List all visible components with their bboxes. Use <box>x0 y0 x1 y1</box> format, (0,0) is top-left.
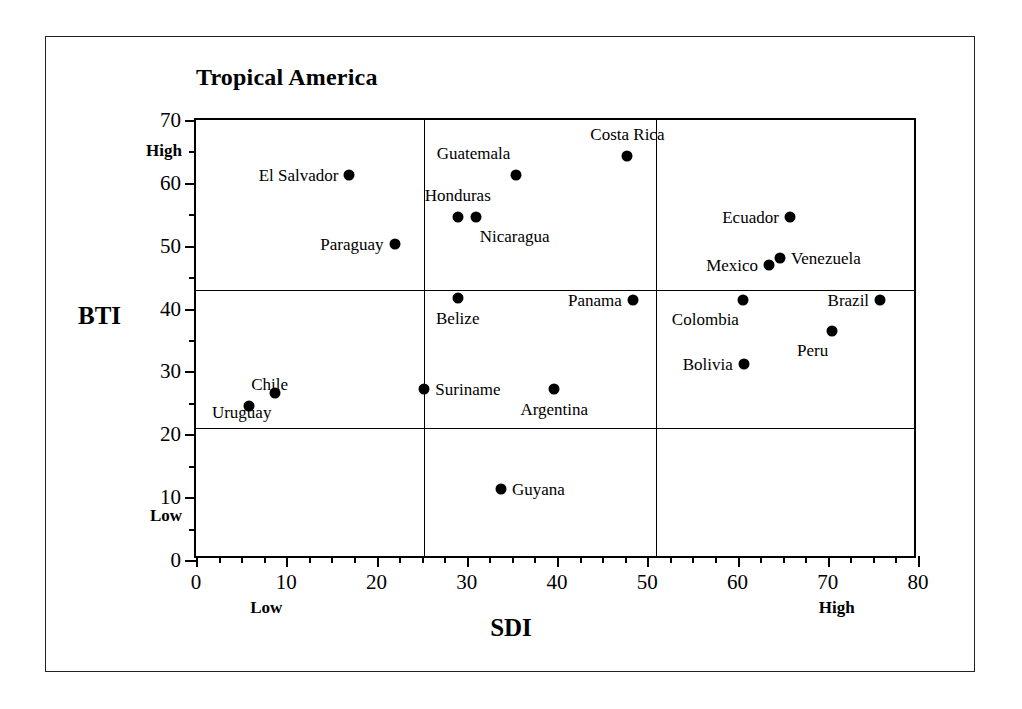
data-point[interactable] <box>875 295 886 306</box>
y-tick-major <box>185 246 196 248</box>
data-point-label: Paraguay <box>320 235 383 255</box>
data-point-label: Belize <box>436 309 479 329</box>
data-point[interactable] <box>419 384 430 395</box>
x-tick-major <box>738 556 740 567</box>
data-point[interactable] <box>389 238 400 249</box>
y-tick-minor <box>189 466 196 468</box>
x-tick-label: 70 <box>817 570 838 595</box>
y-tick-major <box>185 120 196 122</box>
data-point[interactable] <box>622 151 633 162</box>
data-point[interactable] <box>549 384 560 395</box>
x-tick-minor <box>895 556 897 563</box>
y-tick-minor <box>189 214 196 216</box>
plot-area: 010203040506070 01020304050607080 El Sal… <box>194 118 916 558</box>
x-tick-minor <box>331 556 333 563</box>
x-tick-minor <box>580 556 582 563</box>
data-point[interactable] <box>452 292 463 303</box>
x-tick-major <box>557 556 559 567</box>
data-point[interactable] <box>784 212 795 223</box>
x-axis-title: SDI <box>0 614 1022 642</box>
x-tick-label: 30 <box>456 570 477 595</box>
x-tick-minor <box>219 556 221 563</box>
x-tick-minor <box>805 556 807 563</box>
x-tick-major <box>286 556 288 567</box>
data-point[interactable] <box>496 483 507 494</box>
x-tick-major <box>377 556 379 567</box>
x-tick-label: 60 <box>727 570 748 595</box>
y-tick-major <box>185 371 196 373</box>
data-point[interactable] <box>627 295 638 306</box>
y-tick-label: 20 <box>160 422 181 447</box>
data-point[interactable] <box>737 295 748 306</box>
x-tick-label: 50 <box>637 570 658 595</box>
x-tick-label: 20 <box>366 570 387 595</box>
data-point[interactable] <box>511 169 522 180</box>
data-point-label: Venezuela <box>791 249 861 269</box>
y-tick-label: 30 <box>160 359 181 384</box>
x-tick-minor <box>309 556 311 563</box>
data-point[interactable] <box>764 259 775 270</box>
y-tick-major <box>185 434 196 436</box>
data-point-label: Bolivia <box>683 355 733 375</box>
data-point[interactable] <box>452 212 463 223</box>
data-point[interactable] <box>827 326 838 337</box>
x-tick-minor <box>241 556 243 563</box>
chart-title: Tropical America <box>196 64 378 91</box>
data-point[interactable] <box>344 169 355 180</box>
data-point-label: Panama <box>568 291 622 311</box>
y-tick-minor <box>189 277 196 279</box>
x-tick-major <box>918 556 920 567</box>
x-tick-minor <box>783 556 785 563</box>
data-point-label: Mexico <box>706 256 758 276</box>
x-tick-minor <box>760 556 762 563</box>
y-tick-major <box>185 497 196 499</box>
data-point-label: Costa Rica <box>590 125 664 145</box>
data-point-label: Guatemala <box>437 144 511 164</box>
x-tick-label: 10 <box>276 570 297 595</box>
data-point-label: Ecuador <box>722 208 779 228</box>
data-point-label: Guyana <box>512 480 565 500</box>
data-point-label: Brazil <box>828 291 870 311</box>
data-point[interactable] <box>270 387 281 398</box>
y-tick-label: 70 <box>160 108 181 133</box>
y-tick-minor <box>189 529 196 531</box>
data-point-label: Nicaragua <box>480 227 550 247</box>
data-point[interactable] <box>738 358 749 369</box>
y-axis-title: BTI <box>78 302 121 330</box>
y-tick-major <box>185 560 196 562</box>
x-tick-minor <box>715 556 717 563</box>
y-tick-label: 50 <box>160 233 181 258</box>
x-tick-major <box>196 556 198 567</box>
x-tick-label: 0 <box>191 570 202 595</box>
x-axis-high-label: High <box>819 598 855 618</box>
x-tick-minor <box>873 556 875 563</box>
x-tick-minor <box>264 556 266 563</box>
x-tick-major <box>828 556 830 567</box>
data-point-label: Colombia <box>672 310 739 330</box>
data-point-label: Argentina <box>520 400 588 420</box>
x-tick-label: 80 <box>908 570 929 595</box>
y-tick-label: 0 <box>171 548 182 573</box>
y-axis-high-label: High <box>146 141 182 161</box>
x-tick-minor <box>850 556 852 563</box>
x-tick-minor <box>625 556 627 563</box>
data-point-label: Peru <box>797 341 828 361</box>
x-tick-minor <box>534 556 536 563</box>
data-point[interactable] <box>470 212 481 223</box>
x-tick-major <box>467 556 469 567</box>
y-tick-major <box>185 309 196 311</box>
data-point-label: El Salvador <box>259 166 339 186</box>
data-point-label: Suriname <box>435 380 500 400</box>
y-tick-major <box>185 183 196 185</box>
data-point-label: Honduras <box>425 186 491 206</box>
x-tick-minor <box>489 556 491 563</box>
data-point-label: Uruguay <box>212 403 271 423</box>
x-tick-minor <box>692 556 694 563</box>
x-tick-label: 40 <box>547 570 568 595</box>
y-tick-label: 40 <box>160 296 181 321</box>
data-point[interactable] <box>774 252 785 263</box>
x-tick-minor <box>602 556 604 563</box>
x-axis-low-label: Low <box>250 598 282 618</box>
quadrant-divider-vertical <box>424 120 425 556</box>
quadrant-divider-vertical <box>656 120 657 556</box>
